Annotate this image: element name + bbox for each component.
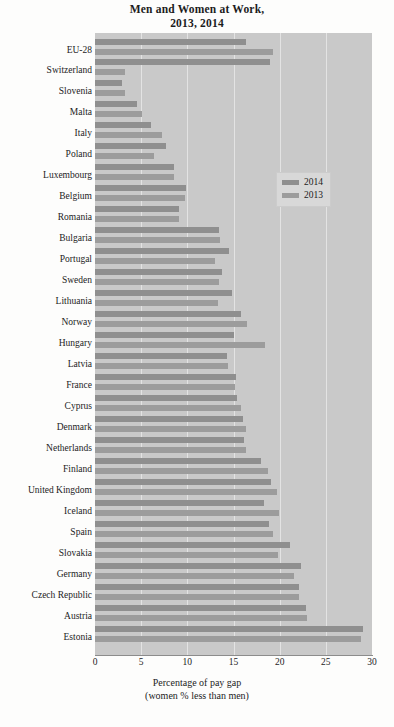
y-axis-label: Malta <box>4 107 92 117</box>
y-axis-label: Czech Republic <box>4 590 92 600</box>
bar-2013 <box>95 594 299 600</box>
y-axis-label: Sweden <box>4 275 92 285</box>
bar-2013 <box>95 153 154 159</box>
y-axis-label: Spain <box>4 527 92 537</box>
bar-2013 <box>95 216 179 222</box>
y-axis-label: Germany <box>4 569 92 579</box>
bar-2014 <box>95 59 270 65</box>
y-axis-label: Hungary <box>4 338 92 348</box>
bar-2014 <box>95 269 222 275</box>
y-axis-label: Poland <box>4 149 92 159</box>
chart-title-line2: 2013, 2014 <box>0 16 394 30</box>
bar-2014 <box>95 39 246 45</box>
bar-2014 <box>95 311 241 317</box>
legend-label-2013: 2013 <box>304 190 323 201</box>
y-axis-label: Cyprus <box>4 401 92 411</box>
y-axis-label: Austria <box>4 611 92 621</box>
x-axis-title-line1: Percentage of pay gap <box>153 677 242 688</box>
bar-2013 <box>95 279 219 285</box>
legend-item-2013: 2013 <box>282 189 323 202</box>
bar-2014 <box>95 437 244 443</box>
y-axis-label: Finland <box>4 464 92 474</box>
legend-item-2014: 2014 <box>282 176 323 189</box>
bar-2014 <box>95 353 227 359</box>
bar-2013 <box>95 342 265 348</box>
x-tick-label: 5 <box>126 657 156 667</box>
y-axis-label: Slovakia <box>4 548 92 558</box>
bar-2013 <box>95 300 218 306</box>
y-axis-label: Denmark <box>4 422 92 432</box>
bar-2013 <box>95 384 235 390</box>
y-axis-label: Switzerland <box>4 65 92 75</box>
bar-2013 <box>95 49 273 55</box>
bar-2014 <box>95 479 271 485</box>
gridline <box>326 33 327 655</box>
y-axis-label: Luxembourg <box>4 170 92 180</box>
bar-2014 <box>95 395 237 401</box>
bar-2014 <box>95 332 234 338</box>
bar-2013 <box>95 321 247 327</box>
x-tick-label: 20 <box>265 657 295 667</box>
chart-title: Men and Women at Work, 2013, 2014 <box>0 2 394 30</box>
bar-2014 <box>95 416 243 422</box>
plot-area <box>95 33 372 655</box>
bar-2014 <box>95 248 229 254</box>
bar-2013 <box>95 531 273 537</box>
y-axis-label: United Kingdom <box>4 485 92 495</box>
bar-2014 <box>95 542 290 548</box>
bar-2014 <box>95 122 151 128</box>
x-tick-label: 30 <box>357 657 387 667</box>
y-axis-label: Latvia <box>4 359 92 369</box>
bar-2014 <box>95 605 306 611</box>
bar-2013 <box>95 90 125 96</box>
y-axis-label: Netherlands <box>4 443 92 453</box>
bar-2013 <box>95 405 241 411</box>
y-axis-label: Slovenia <box>4 86 92 96</box>
y-axis-label: Portugal <box>4 254 92 264</box>
bar-2014 <box>95 290 232 296</box>
legend-swatch-icon-2014 <box>282 180 299 185</box>
y-axis-label: Lithuania <box>4 296 92 306</box>
bar-2014 <box>95 521 269 527</box>
bar-2014 <box>95 185 186 191</box>
bar-2013 <box>95 237 220 243</box>
bar-2014 <box>95 80 122 86</box>
bar-2013 <box>95 615 307 621</box>
chart-page: Men and Women at Work, 2013, 2014 EU-28S… <box>0 0 394 727</box>
bar-2013 <box>95 363 228 369</box>
bar-2013 <box>95 636 361 642</box>
bar-2013 <box>95 426 246 432</box>
bar-2013 <box>95 489 277 495</box>
x-axis-title: Percentage of pay gap (women % less than… <box>0 676 394 702</box>
y-axis-label: France <box>4 380 92 390</box>
legend-swatch-icon-2013 <box>282 193 299 198</box>
gridline <box>280 33 281 655</box>
y-axis-label: Estonia <box>4 632 92 642</box>
bar-2013 <box>95 573 294 579</box>
bar-2014 <box>95 584 299 590</box>
bar-2013 <box>95 258 215 264</box>
bar-2014 <box>95 500 264 506</box>
x-tick-label: 10 <box>172 657 202 667</box>
x-axis-title-line2: (women % less than men) <box>0 689 394 702</box>
x-tick-label: 25 <box>311 657 341 667</box>
bar-2013 <box>95 552 278 558</box>
chart-legend: 2014 2013 <box>276 172 331 207</box>
bar-2014 <box>95 227 219 233</box>
bar-2014 <box>95 164 174 170</box>
bar-2014 <box>95 563 301 569</box>
y-axis-label: Iceland <box>4 506 92 516</box>
y-axis-label: Norway <box>4 317 92 327</box>
bar-2013 <box>95 174 174 180</box>
x-tick-label: 15 <box>219 657 249 667</box>
y-axis-label: Bulgaria <box>4 233 92 243</box>
bar-2013 <box>95 510 279 516</box>
bar-2014 <box>95 458 261 464</box>
legend-label-2014: 2014 <box>304 177 323 188</box>
plot-wrap: EU-28SwitzerlandSloveniaMaltaItalyPoland… <box>0 33 394 657</box>
bar-2013 <box>95 132 162 138</box>
y-axis-label: Italy <box>4 128 92 138</box>
y-axis-label: EU-28 <box>4 45 92 55</box>
bar-2014 <box>95 101 137 107</box>
chart-title-line1: Men and Women at Work, <box>130 3 265 15</box>
